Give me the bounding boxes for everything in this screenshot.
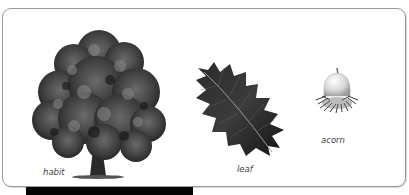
- tree-icon: [24, 22, 170, 182]
- habit-label: habit: [43, 167, 65, 177]
- acorn-icon: [314, 66, 360, 116]
- caption-bar: [26, 187, 193, 195]
- acorn-label: acorn: [321, 135, 345, 145]
- holly-leaf-icon: [194, 60, 290, 158]
- leaf-label: leaf: [237, 164, 253, 174]
